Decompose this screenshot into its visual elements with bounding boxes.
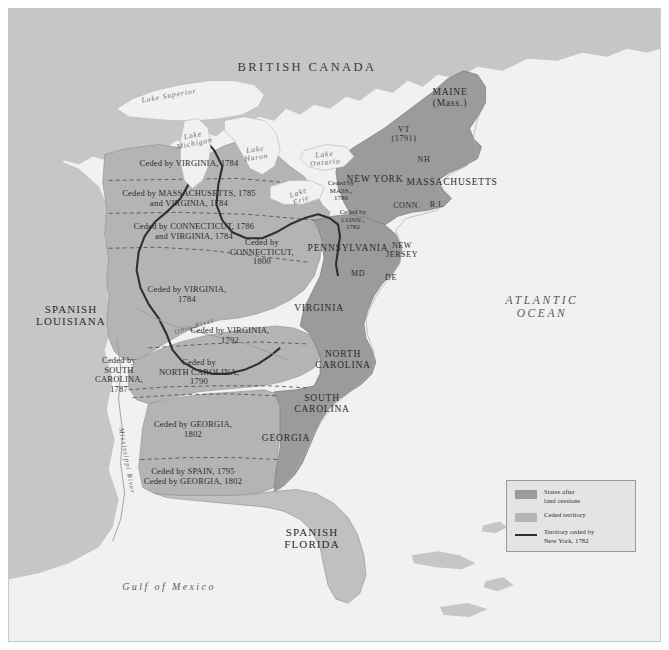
legend-item-states: States afterland cessions (515, 488, 629, 505)
legend-item-ceded: Ceded territory (515, 511, 629, 522)
legend-item-ny-line: Territory ceded byNew York, 1782 (515, 528, 629, 545)
map-legend: States afterland cessions Ceded territor… (506, 480, 636, 552)
legend-label-ceded: Ceded territory (544, 511, 586, 520)
map-canvas: BRITISH CANADASPANISHLOUISIANASPANISHFLO… (8, 8, 661, 642)
map-frame: BRITISH CANADASPANISHLOUISIANASPANISHFLO… (0, 0, 669, 650)
legend-swatch-ny-line-icon (515, 534, 537, 536)
spanish-louisiana-landmass (9, 149, 119, 580)
legend-label-states: States afterland cessions (544, 488, 580, 505)
legend-swatch-states-icon (515, 490, 537, 499)
legend-label-ny-line: Territory ceded byNew York, 1782 (544, 528, 594, 545)
legend-swatch-ceded-icon (515, 513, 537, 522)
ceded-mississippi-territory (139, 390, 281, 496)
